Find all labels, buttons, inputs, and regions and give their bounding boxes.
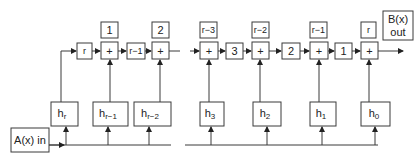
coefficient-h-r: hr xyxy=(51,102,78,126)
adder-1: + 1 xyxy=(101,22,118,59)
input-bus xyxy=(49,127,378,145)
svg-text:1: 1 xyxy=(106,24,112,36)
svg-text:r−1: r−1 xyxy=(312,25,325,35)
delay-r: r xyxy=(77,43,92,59)
delay-1: 1 xyxy=(335,43,352,59)
svg-text:r: r xyxy=(83,46,86,56)
adder-r-minus-2: + r−2 xyxy=(252,22,269,59)
input-box: A(x) in xyxy=(11,128,49,152)
adder-r-minus-1: + r−1 xyxy=(310,22,328,59)
svg-text:3: 3 xyxy=(231,45,237,57)
filter-diagram: A(x) in hr hr−1 hr−2 h3 h2 h1 h0 xyxy=(0,0,415,157)
svg-text:+: + xyxy=(366,45,372,57)
svg-text:1: 1 xyxy=(340,45,346,57)
svg-text:+: + xyxy=(257,45,263,57)
coefficient-h-2: h2 xyxy=(253,102,281,126)
delay-3: 3 xyxy=(226,43,243,59)
coefficient-h-r-minus-2: hr−2 xyxy=(134,102,171,126)
svg-text:+: + xyxy=(206,45,212,57)
svg-text:out: out xyxy=(390,26,405,38)
svg-text:2: 2 xyxy=(157,24,163,36)
coefficient-h-0: h0 xyxy=(361,102,390,126)
output-box: B(x) out xyxy=(383,11,413,40)
delay-2: 2 xyxy=(282,43,300,59)
coefficient-h-1: h1 xyxy=(310,102,336,126)
coefficient-h-r-minus-1: hr−1 xyxy=(93,102,128,126)
svg-text:r−3: r−3 xyxy=(202,25,215,35)
svg-text:r−2: r−2 xyxy=(254,25,267,35)
adder-r-minus-3: + r−3 xyxy=(200,22,218,59)
adder-2: + 2 xyxy=(152,22,169,59)
input-label: A(x) in xyxy=(14,134,46,146)
adder-r: + r xyxy=(361,22,378,59)
svg-text:B(x): B(x) xyxy=(388,13,408,25)
svg-text:+: + xyxy=(316,45,322,57)
svg-text:+: + xyxy=(106,45,112,57)
svg-text:r: r xyxy=(367,25,370,35)
svg-text:2: 2 xyxy=(288,45,294,57)
coefficient-h-3: h3 xyxy=(200,102,224,126)
delay-r-minus-1: r−1 xyxy=(127,43,145,59)
svg-text:r−1: r−1 xyxy=(129,46,142,56)
svg-text:+: + xyxy=(157,45,163,57)
